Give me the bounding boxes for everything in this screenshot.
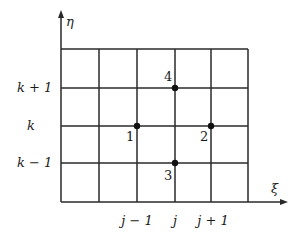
point-3-dot-icon xyxy=(172,160,178,166)
row-label-k: k xyxy=(27,118,35,133)
xi-axis-arrow-icon xyxy=(280,199,288,205)
grid xyxy=(61,49,248,202)
point-2-dot-icon xyxy=(208,123,214,129)
eta-axis-arrow-icon xyxy=(58,10,64,18)
point-1-dot-icon xyxy=(134,123,140,129)
row-label-k-minus-1: k − 1 xyxy=(17,155,52,170)
point-3-label: 3 xyxy=(164,168,172,183)
row-label-k-plus-1: k + 1 xyxy=(17,80,52,95)
col-label-j: j xyxy=(170,213,177,228)
xi-axis-label: ξ xyxy=(271,181,279,196)
point-4-label: 4 xyxy=(164,69,172,84)
eta-axis-label: η xyxy=(66,14,74,29)
grid-diagram: η ξ k + 1 k k − 1 j − 1 j j + 1 1 2 3 4 xyxy=(0,0,301,242)
point-4-dot-icon xyxy=(172,85,178,91)
axes xyxy=(61,14,284,202)
point-1-label: 1 xyxy=(126,129,134,144)
col-label-j-minus-1: j − 1 xyxy=(118,213,152,228)
point-2-label: 2 xyxy=(200,129,208,144)
col-label-j-plus-1: j + 1 xyxy=(194,213,228,228)
